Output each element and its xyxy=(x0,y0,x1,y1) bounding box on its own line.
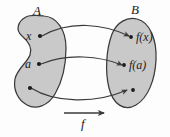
point-x-label: x xyxy=(26,30,31,42)
point-a-label: a xyxy=(25,58,31,70)
point-fa-label: f(a) xyxy=(129,59,146,71)
point-fa xyxy=(122,63,126,67)
set-a-label: A xyxy=(33,4,41,17)
point-x xyxy=(38,34,42,38)
function-mapping-figure: A B x a f(x) f(a) f xyxy=(0,0,170,137)
function-arrow-label: f xyxy=(81,117,85,130)
set-b-label: B xyxy=(131,3,139,16)
point-a xyxy=(37,62,41,66)
point-unlabeled-codomain xyxy=(131,88,135,92)
point-fx xyxy=(129,35,133,39)
point-unlabeled-domain xyxy=(28,86,32,90)
point-fx-label: f(x) xyxy=(136,31,153,43)
